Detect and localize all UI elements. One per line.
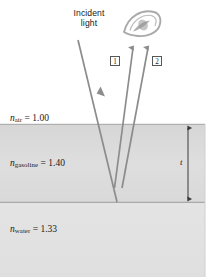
incident-light-line-1: Incident (74, 8, 105, 18)
ray-2-tag: 2 (152, 56, 162, 66)
refractive-index-air-label: nair = 1.00 (10, 113, 49, 124)
ray-1-tag: 1 (110, 56, 120, 66)
n-equals-gasoline: = (38, 158, 48, 168)
n-value-water: 1.33 (40, 224, 57, 234)
n-subscript-water: water (15, 227, 31, 234)
n-value-gasoline: 1.40 (48, 158, 65, 168)
thickness-label: t (180, 157, 183, 167)
n-equals-water: = (30, 224, 40, 234)
thin-film-interference-figure: Incident light nair = 1.00 ngasoline = 1… (0, 0, 207, 277)
n-subscript-gasoline: gasoline (15, 161, 38, 168)
figure-canvas (0, 0, 207, 277)
refractive-index-water-label: nwater = 1.33 (10, 224, 57, 235)
water-region (0, 202, 205, 277)
incident-light-line-2: light (81, 18, 97, 28)
incident-light-label: Incident light (58, 9, 120, 28)
refractive-index-gasoline-label: ngasoline = 1.40 (10, 158, 65, 169)
n-value-air: 1.00 (32, 113, 49, 123)
n-equals-air: = (22, 113, 32, 123)
